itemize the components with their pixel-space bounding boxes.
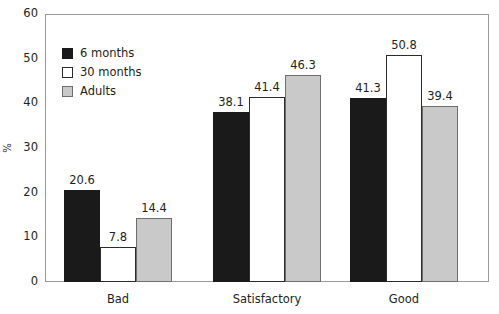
legend-swatch-icon bbox=[62, 67, 73, 78]
y-tick-label: 0 bbox=[4, 276, 38, 288]
category-label: Bad bbox=[107, 292, 129, 306]
category-label: Good bbox=[389, 292, 419, 306]
y-tick-label: 10 bbox=[4, 232, 38, 244]
y-tick-label: 60 bbox=[4, 8, 38, 20]
y-tick-label: 40 bbox=[4, 98, 38, 110]
y-tick-label: 50 bbox=[4, 53, 38, 65]
legend-swatch-icon bbox=[62, 86, 73, 97]
y-axis: 0102030405060 bbox=[0, 0, 40, 314]
legend-item: 6 months bbox=[62, 44, 142, 63]
legend-label: 6 months bbox=[80, 48, 134, 60]
y-tick-label: 20 bbox=[4, 187, 38, 199]
category-label: Satisfactory bbox=[233, 292, 302, 306]
legend-item: Adults bbox=[62, 82, 142, 101]
bar-chart: 0102030405060 % 20.67.814.4Bad38.141.446… bbox=[0, 0, 499, 314]
y-axis-title: % bbox=[2, 143, 13, 153]
legend-swatch-icon bbox=[62, 48, 73, 59]
legend-label: 30 months bbox=[80, 67, 142, 79]
legend: 6 months30 monthsAdults bbox=[62, 44, 142, 101]
legend-label: Adults bbox=[80, 86, 116, 98]
legend-item: 30 months bbox=[62, 63, 142, 82]
